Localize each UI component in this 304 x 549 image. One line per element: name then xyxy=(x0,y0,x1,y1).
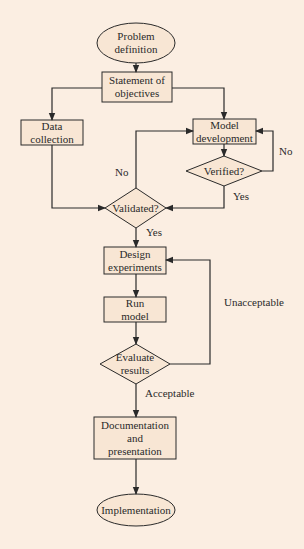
node-label-line: Verified? xyxy=(204,165,244,178)
node-label-line: objectives xyxy=(115,87,160,100)
node-label-line: Design xyxy=(119,248,150,261)
node-label-line: Evaluate xyxy=(116,351,154,364)
node-label-line: Documentation xyxy=(101,419,169,432)
label-evaluate-acceptable: Acceptable xyxy=(145,387,194,400)
node-label-line: Validated? xyxy=(112,202,158,215)
label-evaluate-unacceptable: Unacceptable xyxy=(224,296,284,309)
node-data-collection: Data collection xyxy=(21,120,83,145)
node-label-line: Run xyxy=(126,297,144,310)
edge-evaluate-unacceptable xyxy=(166,260,210,364)
node-label-line: collection xyxy=(30,133,73,146)
node-label-line: Problem xyxy=(117,30,154,43)
edge-verified-yes xyxy=(166,186,224,208)
node-label-line: development xyxy=(196,132,253,145)
node-label-line: Implementation xyxy=(101,504,171,517)
node-label-line: results xyxy=(121,364,150,377)
label-validated-yes: Yes xyxy=(146,226,162,239)
node-statement-of-objectives: Statement of objectives xyxy=(102,72,172,102)
node-label-line: model xyxy=(121,310,149,323)
node-label-line: Statement of xyxy=(109,74,165,87)
edge-statement-model xyxy=(172,88,224,119)
node-label-line: and xyxy=(127,432,143,445)
node-problem-definition: Problem definition xyxy=(97,23,175,63)
node-label-line: definition xyxy=(115,43,158,56)
label-validated-no: No xyxy=(115,166,128,179)
edge-validated-no xyxy=(136,131,193,188)
edge-statement-data xyxy=(52,88,102,120)
flowchart: Problem definition Statement of objectiv… xyxy=(0,0,304,549)
node-label-line: Data xyxy=(42,120,63,133)
label-verified-no: No xyxy=(279,145,292,158)
node-label-line: presentation xyxy=(108,445,162,458)
node-label-line: Model xyxy=(210,119,239,132)
node-design-experiments: Design experiments xyxy=(104,247,166,274)
node-documentation-and-presentation: Documentation and presentation xyxy=(94,417,176,459)
node-implementation: Implementation xyxy=(97,494,175,526)
node-model-development: Model development xyxy=(193,119,256,144)
node-run-model: Run model xyxy=(104,297,166,322)
label-verified-yes: Yes xyxy=(233,190,249,203)
node-verified: Verified? xyxy=(186,156,262,186)
edge-data-validated xyxy=(52,145,105,208)
node-label-line: experiments xyxy=(108,261,162,274)
node-evaluate-results: Evaluate results xyxy=(100,344,170,384)
node-validated: Validated? xyxy=(105,188,166,228)
